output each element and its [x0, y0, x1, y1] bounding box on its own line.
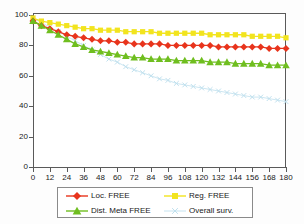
legend-label: Loc. FREE	[91, 191, 130, 200]
chart-container: 020406080100 012243648607284961081201321…	[0, 0, 304, 224]
series-reg-free	[30, 15, 288, 40]
legend-item-0[interactable]: Loc. FREE	[58, 191, 156, 201]
legend-marker-triangle-icon	[66, 206, 88, 216]
legend-item-1[interactable]: Reg. FREE	[156, 191, 254, 201]
legend-marker-diamond-icon	[66, 191, 88, 201]
legend-label: Overall surv.	[189, 206, 233, 215]
legend-item-3[interactable]: Overall surv.	[156, 206, 254, 216]
legend-marker-x-icon	[164, 206, 186, 216]
chart-legend: Loc. FREE Reg. FREE Dist. Meta FREE Over…	[57, 187, 253, 218]
legend-marker-square-icon	[164, 191, 186, 201]
legend-label: Dist. Meta FREE	[91, 206, 151, 215]
legend-item-2[interactable]: Dist. Meta FREE	[58, 206, 156, 216]
legend-label: Reg. FREE	[189, 191, 229, 200]
